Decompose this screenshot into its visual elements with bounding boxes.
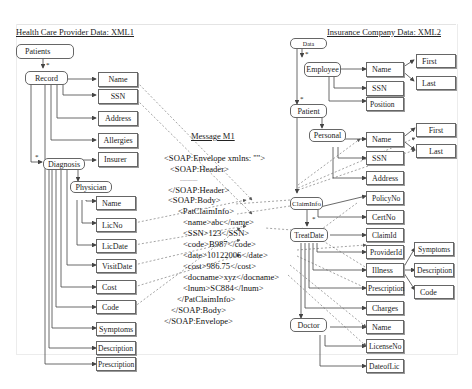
node-insurer[interactable]: Insurer (98, 152, 138, 167)
message-line: </SOAP:Envelope> (164, 316, 233, 327)
node-claiminfo[interactable]: ClaimInfo (290, 197, 323, 210)
node-employee-ssn[interactable]: SSN (366, 81, 404, 96)
node-name[interactable]: Name (98, 72, 138, 87)
message-line: </SOAP:Body> (171, 305, 226, 316)
message-line: .............. (180, 174, 198, 185)
message-line: <SOAP:Envelope xmlns: ""> (164, 153, 265, 164)
node-patient-ssn[interactable]: SSN (366, 151, 404, 165)
multiplicity-marker: * (300, 94, 304, 105)
node-ssn[interactable]: SSN (98, 89, 138, 104)
node-physician-name[interactable]: Name (96, 196, 136, 210)
multiplicity-marker: * (312, 214, 316, 225)
xml1-title: Health Care Provider Data: XML1 (16, 27, 134, 37)
node-prescription-right[interactable]: Prescription (366, 281, 404, 295)
xml2-title: Insurance Company Data: XML2 (327, 27, 441, 37)
node-personal[interactable]: Personal (309, 129, 346, 142)
node-employee-first[interactable]: First (416, 54, 456, 68)
node-employee[interactable]: Employee (304, 62, 341, 77)
node-illness[interactable]: Illness (366, 263, 404, 277)
node-visitdate[interactable]: VisitDate (96, 259, 136, 273)
node-patient-last[interactable]: Last (416, 144, 456, 158)
node-data[interactable]: Data (290, 38, 327, 49)
node-illness-code[interactable]: Code (414, 285, 454, 299)
node-employee-last[interactable]: Last (416, 76, 456, 90)
node-record[interactable]: Record (25, 71, 68, 85)
node-illness-description[interactable]: Description (414, 263, 454, 277)
node-physician[interactable]: Physician (70, 181, 112, 193)
schema-mapping-diagram: Health Care Provider Data: XML1 Patients… (0, 0, 472, 389)
node-symptoms[interactable]: Symptoms (96, 322, 136, 336)
message-title: Message M1 (191, 131, 235, 141)
node-prescription[interactable]: Prescription (96, 357, 136, 371)
node-treatdate[interactable]: TreatDate (290, 228, 328, 242)
node-employee-name[interactable]: Name (366, 62, 404, 77)
message-line: <SOAP:Header> (170, 164, 229, 175)
node-diagnosis[interactable]: Diagnosis (43, 158, 85, 170)
node-patients[interactable]: Patients (16, 44, 74, 59)
node-patient[interactable]: Patient (290, 104, 327, 118)
node-illness-symptoms[interactable]: Symptoms (414, 242, 454, 256)
message-line: <docname>xyz</docname> (183, 272, 279, 283)
node-licdate[interactable]: LicDate (96, 239, 136, 253)
node-description[interactable]: Description (96, 341, 136, 355)
node-doctor[interactable]: Doctor (290, 318, 327, 332)
message-line: <name>abc</name> (183, 217, 254, 228)
node-dateoflic[interactable]: DateofLic (366, 359, 404, 373)
message-line: <date>10122006</date> (183, 250, 268, 261)
node-cost[interactable]: Cost (96, 280, 136, 294)
node-licenseno[interactable]: LicenseNo (366, 339, 404, 353)
message-line: <SSN>123</SSN> (183, 228, 249, 239)
multiplicity-marker: * (46, 60, 50, 71)
message-line: <cost>986.75</cost> (183, 261, 256, 272)
multiplicity-marker: * (305, 49, 309, 60)
node-position[interactable]: Position (366, 97, 404, 111)
message-line: <PatClaimInfo> (178, 206, 234, 217)
node-patient-name[interactable]: Name (366, 132, 404, 147)
node-policyno[interactable]: PolicyNo (366, 191, 404, 205)
node-certno[interactable]: CertNo (366, 210, 404, 224)
node-doctor-name[interactable]: Name (366, 320, 404, 334)
node-claimid[interactable]: ClaimId (366, 228, 404, 242)
message-line: <SOAP:Body> (168, 195, 221, 206)
message-line: </PatClaimInfo> (177, 294, 235, 305)
node-licno[interactable]: LicNo (96, 218, 136, 232)
node-patient-address[interactable]: Address (366, 171, 404, 185)
node-allergies[interactable]: Allergies (98, 133, 138, 148)
node-address[interactable]: Address (98, 111, 138, 126)
node-patient-first[interactable]: First (416, 123, 456, 137)
multiplicity-marker: * (35, 152, 39, 163)
node-charges[interactable]: Charges (366, 301, 404, 315)
message-line: <code>B987</code> (183, 239, 256, 250)
node-providerid[interactable]: ProviderId (366, 245, 404, 259)
message-line: <lnum>SC884</lnum> (183, 283, 264, 294)
node-code[interactable]: Code (96, 300, 136, 314)
